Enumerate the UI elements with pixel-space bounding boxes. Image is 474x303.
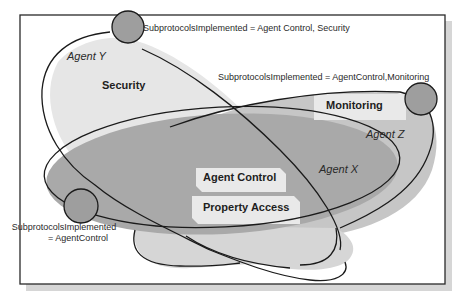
agent-y-node[interactable] — [112, 11, 144, 43]
annotation-agent-x-line2: = AgentControl — [48, 233, 108, 243]
monitoring-label: Monitoring — [326, 99, 383, 111]
agent-z-node[interactable] — [405, 83, 437, 115]
subprotocol-venn-diagram: SubprotocolsImplemented = Agent Control,… — [0, 0, 474, 303]
annotation-agent-z: SubprotocolsImplemented = AgentControl,M… — [218, 72, 429, 82]
agent-x-node[interactable] — [64, 189, 98, 223]
property-access-label: Property Access — [203, 201, 289, 213]
agent-z-label: Agent Z — [365, 128, 406, 140]
annotation-agent-x-line1: SubprotocolsImplemented — [12, 222, 117, 232]
agent-control-label: Agent Control — [203, 171, 276, 183]
agent-y-label: Agent Y — [66, 50, 107, 62]
agent-x-label: Agent X — [318, 163, 359, 175]
security-label: Security — [102, 79, 146, 91]
annotation-agent-y: SubprotocolsImplemented = Agent Control,… — [143, 23, 350, 33]
